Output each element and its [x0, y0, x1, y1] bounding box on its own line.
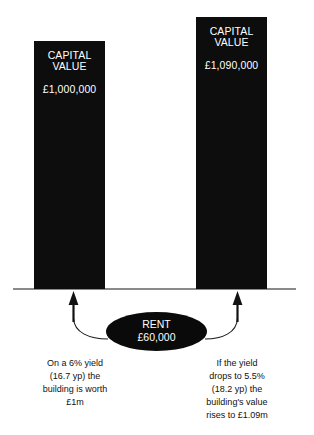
caption-right-line-5: rises to £1.09m — [180, 409, 294, 422]
caption-left-line-4: £1m — [18, 396, 132, 409]
caption-right-line-1: If the yield — [180, 357, 294, 370]
caption-left-line-2: (16.7 yp) the — [18, 370, 132, 383]
rent-bubble-label: RENT — [106, 319, 207, 331]
bar-right-title-line2: VALUE — [196, 37, 267, 48]
caption-left-line-3: building is worth — [18, 383, 132, 396]
yield-capital-value-diagram: CAPITAL VALUE £1,000,000 CAPITAL VALUE £… — [0, 0, 314, 435]
caption-right-line-4: building's value — [180, 396, 294, 409]
rent-bubble: RENT £60,000 — [106, 312, 207, 351]
capital-value-bar-left: CAPITAL VALUE £1,000,000 — [34, 41, 105, 289]
caption-right: If the yield drops to 5.5% (18.2 yp) the… — [180, 357, 294, 422]
caption-left: On a 6% yield (16.7 yp) the building is … — [18, 357, 132, 409]
bar-right-value: £1,090,000 — [196, 60, 267, 71]
caption-right-line-3: (18.2 yp) the — [180, 383, 294, 396]
caption-left-line-1: On a 6% yield — [18, 357, 132, 370]
arrow-up-icon-right — [233, 291, 243, 305]
connector-line-left — [74, 318, 109, 339]
arrow-up-icon-left — [69, 291, 79, 305]
bar-left-value: £1,000,000 — [34, 84, 105, 95]
bar-left-title: CAPITAL VALUE — [34, 50, 105, 72]
caption-right-line-2: drops to 5.5% — [180, 370, 294, 383]
bar-right-title: CAPITAL VALUE — [196, 26, 267, 48]
connector-line-right — [205, 318, 238, 339]
rent-bubble-amount: £60,000 — [106, 332, 207, 344]
capital-value-bar-right: CAPITAL VALUE £1,090,000 — [196, 17, 267, 289]
bar-left-title-line2: VALUE — [34, 61, 105, 72]
